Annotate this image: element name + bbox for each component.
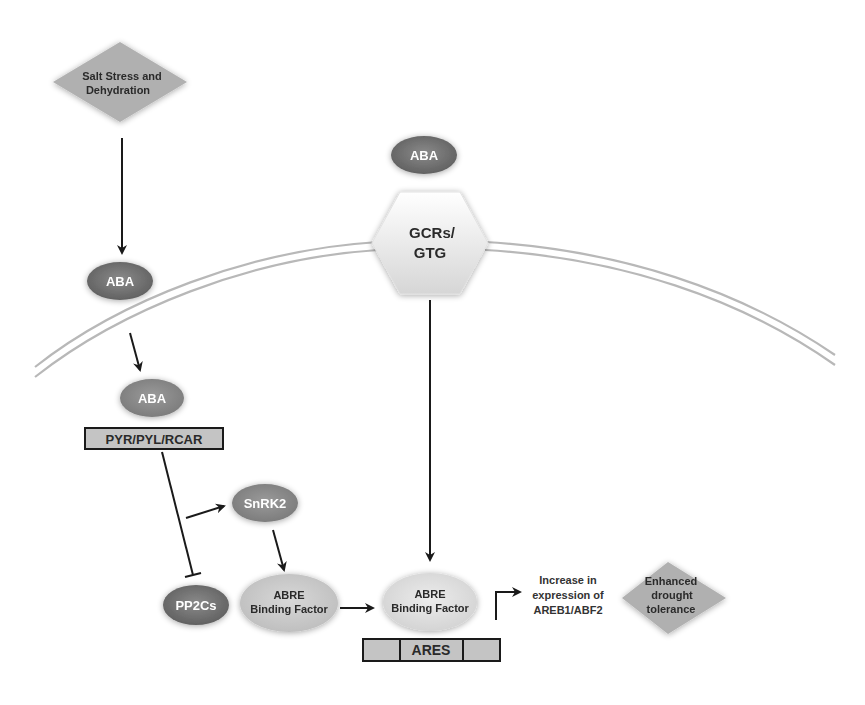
enhanced-drought-tolerance-node: Enhanced drought tolerance bbox=[622, 562, 726, 634]
gcrs-label-line1: GCRs/ bbox=[409, 224, 456, 241]
abre-right-label-line2: Binding Factor bbox=[391, 602, 469, 614]
salt-stress-label-line1: Salt Stress and bbox=[82, 70, 161, 82]
snrk2-node: SnRK2 bbox=[232, 484, 298, 522]
receptor-label: PYR/PYL/RCAR bbox=[106, 432, 203, 447]
salt-stress-node: Salt Stress and Dehydration bbox=[53, 42, 187, 122]
pp2cs-node: PP2Cs bbox=[163, 585, 229, 625]
aba-outside-left-node: ABA bbox=[87, 262, 153, 300]
arrow-snrk2-to-abre bbox=[273, 530, 284, 570]
ares-promoter-element: ARES bbox=[363, 639, 500, 661]
abre-binding-factor-right-node: ABRE Binding Factor bbox=[383, 573, 477, 631]
arrow-to-snrk2 bbox=[186, 506, 224, 518]
salt-stress-label-line2: Dehydration bbox=[86, 84, 150, 96]
aba-outside-left-label: ABA bbox=[106, 274, 135, 289]
expression-increase-text: Increase in expression of AREB1/ABF2 bbox=[532, 574, 604, 616]
aba-outside-top-label: ABA bbox=[410, 148, 439, 163]
gcrs-gtg-receptor-node: GCRs/ GTG bbox=[372, 192, 488, 294]
aba-signaling-diagram: Salt Stress and Dehydration ABA ABA GCRs… bbox=[0, 0, 865, 705]
ares-label: ARES bbox=[412, 642, 451, 658]
abre-left-label-line1: ABRE bbox=[273, 589, 304, 601]
abre-right-label-line1: ABRE bbox=[414, 588, 445, 600]
outcome-line1: Enhanced bbox=[645, 575, 698, 587]
outcome-line3: tolerance bbox=[647, 603, 696, 615]
expression-line2: expression of bbox=[532, 589, 604, 601]
abre-binding-factor-left-node: ABRE Binding Factor bbox=[240, 574, 338, 632]
expression-line1: Increase in bbox=[539, 574, 597, 586]
aba-outside-top-node: ABA bbox=[391, 136, 457, 174]
expression-line3: AREB1/ABF2 bbox=[533, 604, 602, 616]
snrk2-label: SnRK2 bbox=[244, 496, 287, 511]
transcription-start-arrow bbox=[496, 592, 520, 620]
outcome-line2: drought bbox=[651, 589, 693, 601]
gcrs-label-line2: GTG bbox=[414, 244, 447, 261]
abre-left-label-line2: Binding Factor bbox=[250, 603, 328, 615]
pyr-pyl-rcar-receptor: PYR/PYL/RCAR bbox=[85, 428, 223, 449]
aba-inside-label: ABA bbox=[138, 391, 167, 406]
aba-inside-node: ABA bbox=[120, 379, 184, 417]
arrow-aba-entry bbox=[130, 333, 140, 370]
pp2cs-label: PP2Cs bbox=[175, 598, 216, 613]
